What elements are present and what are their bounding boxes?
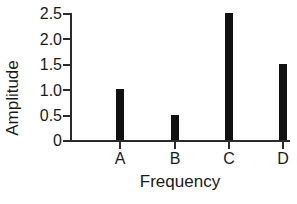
y-tick-label-2-0: 2.0 [18, 32, 62, 48]
bar-b [171, 115, 179, 140]
x-axis-line [70, 140, 290, 142]
y-tick-label-1-0: 1.0 [18, 83, 62, 99]
y-tick-label-0-5: 0.5 [18, 108, 62, 124]
bar-chart: Amplitude 2.5 2.0 1.5 1.0 0.5 0 A B C D … [0, 0, 297, 204]
x-tick-label-b: B [155, 150, 195, 168]
y-tick-label-1-5: 1.5 [18, 57, 62, 73]
x-axis-label: Frequency [70, 172, 290, 192]
y-tick-label-0: 0 [18, 133, 62, 149]
x-tick-mark-d [282, 142, 284, 149]
bar-a [116, 89, 124, 140]
x-tick-label-c: C [209, 150, 249, 168]
bar-c [225, 13, 233, 140]
x-tick-label-a: A [100, 150, 140, 168]
x-tick-label-d: D [263, 150, 297, 168]
y-axis-line [70, 13, 72, 142]
bar-d [279, 64, 287, 140]
x-tick-mark-a [119, 142, 121, 149]
y-tick-label-2-5: 2.5 [18, 6, 62, 22]
x-tick-mark-c [228, 142, 230, 149]
x-tick-mark-b [174, 142, 176, 149]
y-axis-tick-labels: 2.5 2.0 1.5 1.0 0.5 0 [16, 0, 62, 204]
